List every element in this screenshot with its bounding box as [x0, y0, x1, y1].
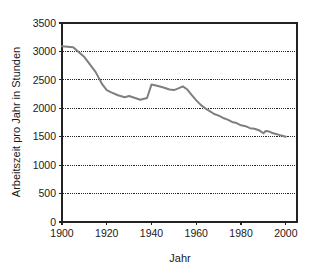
x-tick-label: 1940 [140, 227, 164, 239]
y-tick-label: 0 [50, 216, 56, 228]
chart-figure: 0500100015002000250030003500 19001920194… [0, 0, 330, 271]
x-tick-label: 1920 [95, 227, 119, 239]
y-tick-label: 500 [38, 187, 56, 199]
x-tick-label: 2000 [274, 227, 298, 239]
line-chart: 0500100015002000250030003500 19001920194… [0, 0, 330, 271]
y-tick-label: 3500 [33, 17, 57, 29]
y-tick-label: 1500 [33, 130, 57, 142]
x-axis-title: Jahr [169, 252, 191, 264]
x-tick-label: 1960 [185, 227, 209, 239]
y-axis-title: Arbeitszeit pro Jahr in Stunden [10, 47, 22, 197]
x-tick-label: 1980 [229, 227, 253, 239]
y-tick-label: 1000 [33, 159, 57, 171]
y-tick-label: 3000 [33, 45, 57, 57]
y-tick-label: 2500 [33, 74, 57, 86]
x-tick-label: 1900 [50, 227, 74, 239]
plot-area-background [62, 23, 297, 222]
y-tick-label: 2000 [33, 102, 57, 114]
